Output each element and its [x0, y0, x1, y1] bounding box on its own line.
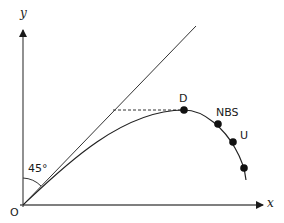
angle-arc	[23, 178, 41, 186]
label-d: D	[179, 92, 187, 105]
point-4	[240, 164, 248, 172]
curve	[23, 110, 246, 205]
origin-label: O	[10, 206, 19, 219]
x-axis-label: x	[267, 196, 274, 210]
label-u: U	[240, 129, 248, 142]
label-nbs: NBS	[216, 106, 239, 119]
point-nbs	[214, 120, 222, 128]
forty-five-degree-line	[23, 26, 196, 205]
point-d	[180, 106, 188, 114]
point-u	[229, 138, 237, 146]
diagram-canvas: y x O 45° D NBS U	[0, 0, 284, 223]
angle-label: 45°	[28, 162, 48, 175]
y-axis-label: y	[19, 6, 27, 20]
